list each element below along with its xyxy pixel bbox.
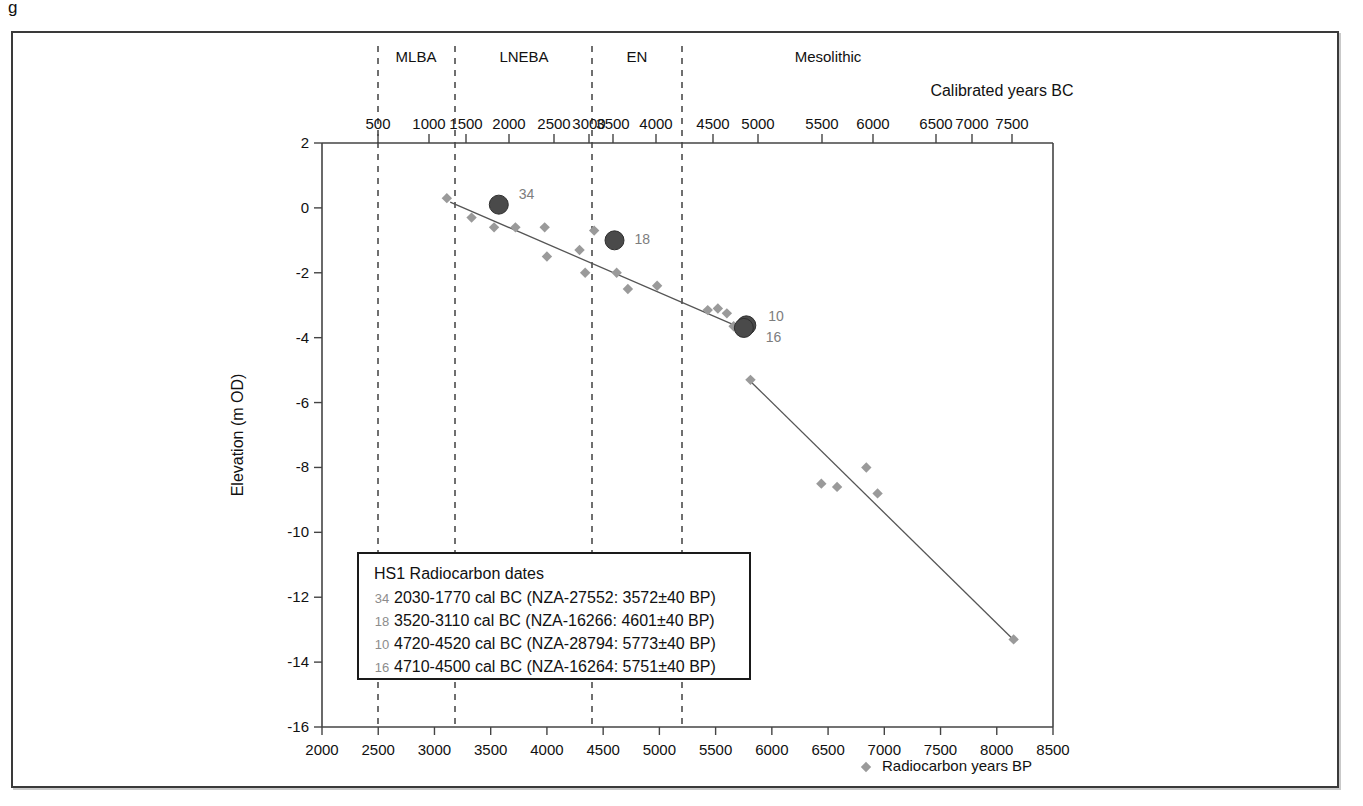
y-axis-title: Elevation (m OD) [229,374,246,497]
legend-row-num-0: 34 [375,591,389,606]
y-axis-tick-label-1: 0 [301,199,309,216]
x-axis-tick-label-11: 7500 [924,741,957,758]
data-point-label-18: 18 [635,231,651,247]
data-point-diamond-8 [589,225,599,235]
data-point-diamond-18 [832,482,842,492]
data-point-label-16: 16 [766,329,782,345]
top-axis-group: 5001000150020002500300035004000450050005… [322,82,1074,143]
legend-box-title: HS1 Radiocarbon dates [374,565,544,582]
data-point-diamond-4 [539,222,549,232]
data-point-diamond-5 [542,251,552,261]
y-axis-group: 20-2-4-6-8-10-12-14-16Elevation (m OD) [229,134,322,735]
data-point-diamond-6 [574,245,584,255]
x-axis-tick-label-1: 2500 [362,741,395,758]
x-axis-tick-label-7: 5500 [699,741,732,758]
data-point-diamond-7 [580,268,590,278]
legend-row-text-0: 2030-1770 cal BC (NZA-27552: 3572±40 BP) [394,589,716,606]
data-point-diamond-3 [510,222,520,232]
top-axis-tick-label-11: 6000 [856,115,889,132]
data-point-circle-34 [489,195,508,214]
top-axis-tick-label-7: 4000 [639,115,672,132]
data-point-diamond-9 [611,268,621,278]
top-axis-title: Calibrated years BC [930,82,1073,99]
data-point-diamond-16 [745,375,755,385]
y-axis-tick-label-3: -4 [296,329,309,346]
diamond-marker-icon [861,762,871,772]
data-point-diamond-12 [703,305,713,315]
trend-line-lower-trend [752,382,1015,641]
legend-row-num-1: 18 [375,614,389,629]
x-axis-tick-label-2: 3000 [418,741,451,758]
chart-canvas: MLBALNEBAENMesolithic 500100015002000250… [0,0,1363,806]
period-label-1: LNEBA [499,48,548,65]
x-axis-tick-label-12: 8000 [980,741,1013,758]
x-axis-tick-label-0: 2000 [305,741,338,758]
data-point-diamond-19 [861,462,871,472]
y-axis-tick-label-8: -14 [287,653,309,670]
data-point-diamond-14 [722,308,732,318]
top-axis-tick-label-12: 6500 [919,115,952,132]
data-point-circle-18 [605,231,624,250]
x-axis-group: 2000250030003500400045005000550060006500… [305,727,1069,758]
y-axis-tick-label-0: 2 [301,134,309,151]
x-axis-tick-label-9: 6500 [811,741,844,758]
x-axis-tick-label-10: 7000 [868,741,901,758]
top-axis-tick-label-9: 5000 [741,115,774,132]
x-axis-tick-label-5: 4500 [586,741,619,758]
y-axis-tick-label-4: -6 [296,394,309,411]
legend-row-num-2: 10 [375,637,389,652]
data-point-diamond-13 [713,303,723,313]
top-axis-tick-label-13: 7000 [955,115,988,132]
figure-root: g MLBALNEBAENMesolithic 5001000150020002… [0,0,1363,806]
legend-row-text-2: 4720-4520 cal BC (NZA-28794: 5773±40 BP) [394,635,716,652]
x-axis-tick-label-4: 4000 [530,741,563,758]
top-axis-tick-label-8: 4500 [696,115,729,132]
data-point-diamond-10 [623,284,633,294]
series-key-label: Radiocarbon years BP [882,757,1032,774]
period-label-3: Mesolithic [795,48,862,65]
top-axis-tick-label-3: 2000 [492,115,525,132]
y-axis-tick-label-5: -8 [296,458,309,475]
series-key-group: Radiocarbon years BP [861,757,1032,774]
legend-box-group: HS1 Radiocarbon dates342030-1770 cal BC … [358,553,750,679]
x-axis-tick-label-3: 3500 [474,741,507,758]
period-label-group: MLBALNEBAENMesolithic [396,48,862,65]
top-axis-tick-label-0: 500 [365,115,390,132]
top-axis-tick-label-10: 5500 [805,115,838,132]
data-point-diamond-20 [872,488,882,498]
x-axis-tick-label-6: 5000 [643,741,676,758]
top-axis-tick-label-6: 3500 [596,115,629,132]
top-axis-tick-label-2: 1500 [449,115,482,132]
data-point-circle-16 [734,318,753,337]
x-axis-tick-label-13: 8500 [1036,741,1069,758]
data-point-label-34: 34 [519,186,535,202]
top-axis-tick-label-1: 1000 [412,115,445,132]
period-label-0: MLBA [396,48,437,65]
legend-row-num-3: 16 [375,660,389,675]
y-axis-tick-label-9: -16 [287,718,309,735]
data-point-diamond-1 [466,212,476,222]
data-point-label-10: 10 [768,308,784,324]
y-axis-tick-label-6: -10 [287,523,309,540]
legend-row-text-3: 4710-4500 cal BC (NZA-16264: 5751±40 BP) [394,658,716,675]
x-axis-tick-label-8: 6000 [755,741,788,758]
period-label-2: EN [627,48,648,65]
top-axis-tick-label-14: 7500 [995,115,1028,132]
top-axis-tick-label-4: 2500 [537,115,570,132]
data-point-diamond-2 [489,222,499,232]
y-axis-tick-label-2: -2 [296,264,309,281]
legend-row-text-1: 3520-3110 cal BC (NZA-16266: 4601±40 BP) [394,612,715,629]
data-point-diamond-17 [816,478,826,488]
y-axis-tick-label-7: -12 [287,588,309,605]
trend-line-upper-trend [450,202,745,330]
